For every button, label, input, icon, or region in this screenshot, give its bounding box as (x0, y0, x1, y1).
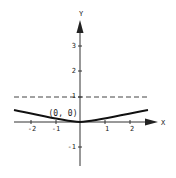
y-tick-label: 3 (72, 42, 76, 50)
function-plot: Y X -2 -1 1 2 3 2 1 -1 (0, 0) (0, 0, 176, 178)
x-axis-arrow-icon (145, 119, 158, 126)
y-axis-label: Y (79, 10, 84, 18)
x-tick-label: -2 (28, 125, 36, 133)
function-curve (14, 110, 148, 122)
y-tick-label: -1 (68, 143, 76, 151)
y-axis-arrow-icon (77, 20, 84, 33)
x-tick-label: 1 (105, 125, 109, 133)
x-tick-label: -1 (52, 125, 60, 133)
origin-annotation: (0, 0) (49, 109, 78, 118)
x-tick-label: 2 (130, 125, 134, 133)
x-axis-label: X (161, 119, 166, 127)
y-tick-label: 1 (72, 92, 76, 100)
y-tick-label: 2 (72, 67, 76, 75)
